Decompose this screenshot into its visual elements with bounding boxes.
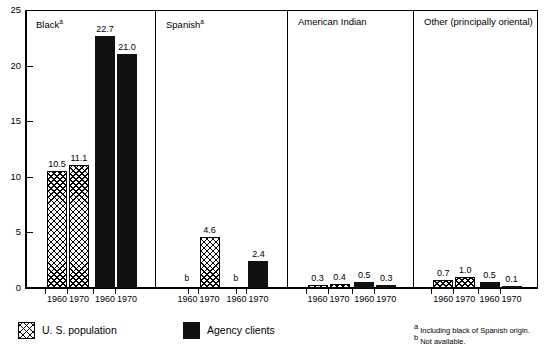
- y-axis-tick: [25, 177, 33, 178]
- x-axis-category-label: 1970: [241, 295, 275, 304]
- bar: [354, 282, 374, 288]
- y-axis-tick: [25, 288, 33, 289]
- y-axis-tick-label: 0: [0, 283, 21, 293]
- x-axis-tick: [328, 289, 329, 294]
- panel-title-footnote-marker: a: [200, 18, 204, 25]
- bar: [308, 285, 328, 288]
- panel-title-footnote-marker: a: [59, 18, 63, 25]
- x-axis-tick: [453, 289, 454, 294]
- x-axis-category-label: 1970: [495, 295, 529, 304]
- bar-value-label: 0.1: [493, 275, 531, 284]
- not-available-marker: b: [233, 274, 238, 283]
- x-axis-tick: [352, 289, 353, 294]
- y-axis-tick-label: 20: [0, 61, 21, 71]
- x-axis-tick: [374, 289, 375, 294]
- panel-title-text: Black: [36, 19, 59, 30]
- bar-value-label: 11.1: [60, 154, 98, 163]
- x-axis-category-label: 1970: [369, 295, 403, 304]
- bar: [330, 284, 350, 288]
- panel-title-text: American Indian: [298, 16, 367, 27]
- panel-separator: [287, 10, 288, 288]
- panel-title: American Indian: [298, 16, 367, 28]
- legend-swatch-us-population: [18, 322, 35, 339]
- footnote-marker: a: [414, 322, 418, 331]
- bar: [502, 286, 522, 288]
- y-axis-tick: [25, 66, 33, 67]
- bar: [117, 54, 137, 288]
- x-axis-tick: [93, 289, 94, 294]
- bar-chart-figure: 0510152025 Blacka10.5196011.1197022.7196…: [0, 0, 545, 347]
- bar: [69, 165, 89, 288]
- bar: [47, 171, 67, 288]
- x-axis-tick: [198, 289, 199, 294]
- x-axis-tick: [246, 289, 247, 294]
- footnote: bNot available.: [414, 333, 466, 346]
- y-axis-tick: [25, 232, 33, 233]
- footnote-text: Not available.: [420, 337, 465, 346]
- bar-value-label: 4.6: [191, 226, 229, 235]
- bar-value-label: 22.7: [86, 25, 124, 34]
- x-axis-tick: [45, 289, 46, 294]
- panel-title: Other (principally oriental): [424, 16, 534, 28]
- x-axis-tick: [431, 289, 432, 294]
- y-axis-tick-label: 15: [0, 116, 21, 126]
- footnote-marker: b: [414, 333, 418, 342]
- bar: [200, 237, 220, 288]
- panel-title: Spanisha: [166, 16, 204, 31]
- panel-separator: [155, 10, 156, 288]
- bar: [433, 280, 453, 288]
- not-available-marker: b: [185, 274, 190, 283]
- bar-value-label: 21.0: [108, 43, 146, 52]
- x-axis-tick: [478, 289, 479, 294]
- bar: [248, 261, 268, 288]
- x-axis-tick: [115, 289, 116, 294]
- bar-value-label: 0.3: [367, 274, 405, 283]
- x-axis-tick: [500, 289, 501, 294]
- bar: [376, 285, 396, 288]
- panel-title: Blacka: [36, 16, 63, 31]
- legend-label: U. S. population: [42, 322, 117, 339]
- panel-title-text: Other (principally oriental): [424, 16, 533, 27]
- x-axis-tick: [67, 289, 68, 294]
- x-axis-tick: [306, 289, 307, 294]
- legend-swatch-agency-clients: [183, 322, 200, 339]
- y-axis-line: [25, 10, 27, 289]
- y-axis-tick-label: 5: [0, 227, 21, 237]
- x-axis-category-label: 1970: [110, 295, 144, 304]
- legend-label: Agency clients: [207, 322, 275, 339]
- bar: [95, 36, 115, 288]
- y-axis-tick-label: 10: [0, 172, 21, 182]
- bar-value-label: 2.4: [239, 250, 277, 259]
- y-axis-tick-label: 25: [0, 5, 21, 15]
- panel-separator: [413, 10, 414, 288]
- y-axis-tick: [25, 121, 33, 122]
- panel-title-text: Spanish: [166, 19, 200, 30]
